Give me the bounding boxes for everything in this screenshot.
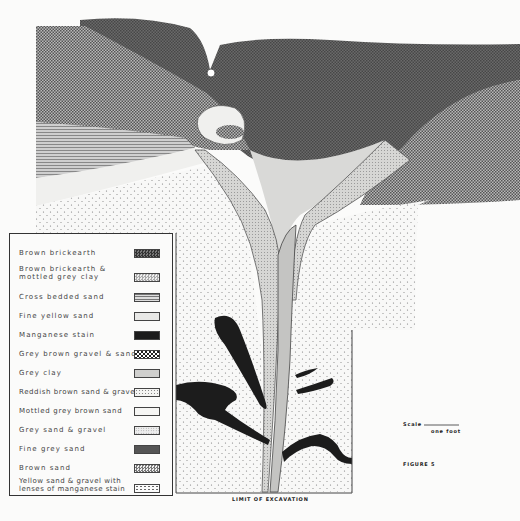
excavation-caption: LIMIT OF EXCAVATION: [232, 496, 309, 502]
legend-label: Manganese stain: [19, 331, 95, 339]
legend-label: Grey sand & gravel: [19, 426, 106, 434]
legend-item: Yellow sand & gravel with lenses of mang…: [10, 477, 174, 493]
scale-unit: one foot: [431, 428, 461, 434]
swatch-fine-grey-sand: [134, 445, 160, 454]
swatch-brickearth-mottled-clay: [134, 273, 160, 282]
legend-item: Mottled grey brown sand: [10, 405, 174, 421]
legend-item: Brown brickearth: [10, 246, 174, 262]
legend-label: Brown brickearth & mottled grey clay: [19, 265, 106, 281]
swatch-grey-clay: [134, 369, 160, 378]
swatch-mottled-grey-brown-sand: [134, 407, 160, 416]
legend-item: Fine yellow sand: [10, 310, 174, 326]
legend-item: Fine grey sand: [10, 443, 174, 459]
legend-label: Fine yellow sand: [19, 312, 94, 320]
swatch-fine-yellow-sand: [134, 312, 160, 321]
legend-label: Cross bedded sand: [19, 293, 105, 301]
scale-label: Scale: [403, 421, 422, 427]
legend-item: Brown sand: [10, 462, 174, 478]
legend-label: Reddish brown sand & gravel: [19, 388, 138, 396]
swatch-yellow-sand-gravel-manganese: [134, 484, 160, 493]
swatch-manganese-stain: [134, 331, 160, 340]
figure-label: FIGURE 5: [403, 461, 435, 467]
legend-item: Reddish brown sand & gravel: [10, 386, 174, 402]
swatch-grey-sand-gravel: [134, 426, 160, 435]
legend-item: Cross bedded sand: [10, 291, 174, 307]
layer-gravel-lens: [216, 125, 244, 139]
legend-item: Grey clay: [10, 367, 174, 383]
legend-label: Yellow sand & gravel with lenses of mang…: [19, 477, 125, 493]
swatch-grey-brown-gravel-sand: [134, 350, 160, 359]
swatch-cross-bedded-sand: [134, 293, 160, 302]
swatch-brown-sand: [134, 464, 160, 473]
legend-item: Grey sand & gravel: [10, 424, 174, 440]
swatch-brown-brickearth: [134, 249, 160, 258]
legend-label: Fine grey sand: [19, 445, 86, 453]
legend-label: Grey brown gravel & sand: [19, 350, 137, 358]
legend-label: Brown brickearth: [19, 249, 96, 257]
legend-label: Brown sand: [19, 464, 71, 472]
legend-label: Grey clay: [19, 369, 62, 377]
legend-label: Mottled grey brown sand: [19, 407, 122, 415]
swatch-reddish-brown-sand-gravel: [134, 388, 160, 397]
legend-item: Brown brickearth & mottled grey clay: [10, 265, 174, 281]
legend-item: Grey brown gravel & sand: [10, 348, 174, 364]
legend-box: Brown brickearth Brown brickearth & mott…: [9, 233, 173, 496]
legend-item: Manganese stain: [10, 329, 174, 345]
